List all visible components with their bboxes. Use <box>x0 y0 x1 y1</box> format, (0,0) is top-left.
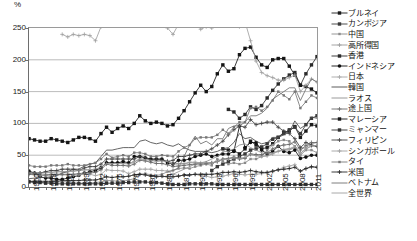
data-point-marker <box>260 183 263 186</box>
data-point-marker <box>177 174 181 178</box>
legend-item-label: ミャンマー <box>348 125 387 134</box>
legend-item-14[interactable]: タイ <box>331 156 417 167</box>
legend-item-label: ベトナム <box>348 178 379 187</box>
data-point-marker <box>255 106 257 108</box>
data-point-marker <box>99 28 103 29</box>
legend-item-label: マレーシア <box>348 115 387 124</box>
legend-item-3[interactable]: 高所得国 <box>331 40 417 51</box>
data-point-marker <box>149 122 152 125</box>
data-point-marker <box>227 152 231 156</box>
data-point-marker <box>171 123 174 126</box>
data-point-marker <box>83 164 85 166</box>
data-point-marker <box>310 94 312 96</box>
data-point-marker <box>144 180 147 183</box>
data-point-marker <box>89 163 91 165</box>
legend-item-13[interactable]: シンガポール <box>331 146 417 157</box>
data-point-marker <box>193 182 196 185</box>
data-point-marker <box>143 167 147 171</box>
data-point-marker <box>276 168 280 172</box>
data-point-marker <box>71 32 75 36</box>
legend-item-16[interactable]: ベトナム <box>331 178 417 189</box>
legend-item-17[interactable]: 全世界 <box>331 188 417 199</box>
data-point-marker <box>205 136 207 138</box>
data-point-marker <box>315 55 317 58</box>
data-point-marker <box>183 146 185 148</box>
data-point-marker <box>249 168 253 172</box>
data-point-marker <box>293 148 297 152</box>
legend-item-9[interactable]: 途上国 <box>331 103 417 114</box>
data-point-marker <box>60 32 64 36</box>
legend-item-8[interactable]: ラオス <box>331 93 417 104</box>
y-axis-unit-label: % <box>14 1 21 9</box>
data-point-marker <box>154 161 158 165</box>
legend-item-0[interactable]: ブルネイ <box>331 8 417 19</box>
data-point-marker <box>271 58 274 61</box>
legend-item-1[interactable]: カンボジア <box>331 19 417 30</box>
data-point-marker <box>243 183 246 186</box>
legend-key-swatch <box>331 125 348 135</box>
legend-item-10[interactable]: マレーシア <box>331 114 417 125</box>
x-axis-tick-mark <box>145 187 146 190</box>
data-point-marker <box>83 136 86 139</box>
data-point-marker <box>227 163 229 165</box>
legend-item-7[interactable]: 韓国 <box>331 82 417 93</box>
legend-item-11[interactable]: ミャンマー <box>331 125 417 136</box>
data-point-marker <box>338 128 341 131</box>
x-axis-tick-mark <box>228 187 229 190</box>
legend-item-5[interactable]: インドネシア <box>331 61 417 72</box>
data-point-marker <box>88 137 91 140</box>
data-point-marker <box>243 146 247 150</box>
data-point-marker <box>315 124 317 127</box>
y-axis-tick-label: 50 <box>0 151 26 159</box>
data-point-marker <box>94 162 96 164</box>
x-axis-tick-label: 1975 <box>116 173 124 191</box>
x-axis-tick-mark <box>212 187 213 190</box>
data-point-marker <box>105 126 108 129</box>
legend-item-2[interactable]: 中国 <box>331 29 417 40</box>
x-axis-tick-mark <box>129 187 130 190</box>
data-point-marker <box>277 57 280 60</box>
data-point-marker <box>338 64 342 68</box>
legend-key-swatch <box>331 19 348 29</box>
data-point-marker <box>67 163 69 165</box>
x-axis-tick-label: 2008 <box>299 173 307 191</box>
data-point-marker <box>338 22 341 25</box>
legend-key-swatch <box>331 40 348 50</box>
data-point-marker <box>288 140 290 142</box>
data-point-marker <box>227 70 230 73</box>
data-point-marker <box>29 164 30 166</box>
data-point-marker <box>338 160 340 162</box>
data-point-marker <box>127 155 129 157</box>
data-point-marker <box>127 179 129 181</box>
data-point-marker <box>205 90 208 93</box>
legend-item-6[interactable]: 日本 <box>331 72 417 83</box>
legend-item-label: ブルネイ <box>348 9 379 18</box>
legend-item-4[interactable]: 香港 <box>331 50 417 61</box>
data-point-marker <box>210 155 214 159</box>
plot-area <box>28 27 318 188</box>
data-point-marker <box>110 163 114 167</box>
x-axis-tick-label: 1981 <box>149 173 157 191</box>
data-point-marker <box>255 158 257 160</box>
data-point-marker <box>315 140 317 144</box>
data-point-marker <box>161 154 163 156</box>
x-axis-tick-label: 1966 <box>66 173 74 191</box>
data-point-marker <box>150 155 152 157</box>
data-point-marker <box>338 118 341 121</box>
legend-item-12[interactable]: フィリピン <box>331 135 417 146</box>
data-point-marker <box>72 164 74 166</box>
data-point-marker <box>160 122 163 125</box>
series-canvas <box>29 28 317 187</box>
data-point-marker <box>144 119 147 122</box>
data-point-marker <box>293 126 296 129</box>
x-axis-tick-mark <box>262 187 263 190</box>
legend-item-15[interactable]: 米国 <box>331 167 417 178</box>
x-axis-tick-label: 1978 <box>133 173 141 191</box>
legend-item-label: 香港 <box>348 51 364 60</box>
data-point-marker <box>110 131 113 134</box>
data-point-marker <box>221 162 224 165</box>
data-point-marker <box>110 181 113 184</box>
data-point-marker <box>77 179 81 183</box>
x-axis-tick-mark <box>162 187 163 190</box>
data-point-marker <box>144 153 146 155</box>
